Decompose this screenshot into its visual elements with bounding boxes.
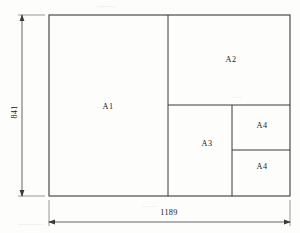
diagram-canvas: A1 A2 A3 A4 A4 841: [0, 0, 300, 233]
width-dimension: 1189: [48, 200, 291, 226]
area-label-a3: A3: [202, 139, 213, 148]
area-label-a4-top: A4: [257, 121, 268, 130]
paper-subdivision-diagram: A1 A2 A3 A4 A4 841: [0, 0, 300, 233]
area-label-a1: A1: [103, 102, 114, 111]
height-dimension: 841: [10, 14, 45, 197]
height-dim-label: 841: [10, 105, 19, 118]
width-dim-label: 1189: [160, 208, 177, 217]
area-label-a2: A2: [226, 55, 237, 64]
scan-noise: [18, 6, 242, 225]
area-label-a4-bottom: A4: [257, 162, 268, 171]
